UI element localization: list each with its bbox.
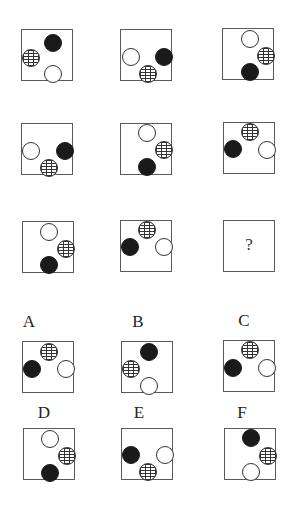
- grid-cell-r1c1: [21, 29, 73, 81]
- black-circle-icon: [224, 140, 242, 158]
- option-box-f[interactable]: [224, 428, 276, 480]
- brick-circle-icon: [122, 360, 140, 378]
- question-mark: ?: [224, 235, 274, 255]
- black-circle-icon: [241, 63, 259, 81]
- white-circle-icon: [22, 142, 40, 160]
- brick-circle-icon: [22, 49, 40, 67]
- brick-circle-icon: [259, 447, 277, 465]
- white-circle-icon: [122, 48, 140, 66]
- brick-circle-icon: [40, 343, 58, 361]
- grid-cell-r3c2: [120, 220, 172, 272]
- option-label-e: E: [119, 403, 159, 423]
- brick-circle-icon: [241, 341, 259, 359]
- brick-circle-icon: [57, 240, 75, 258]
- option-label-a: A: [9, 312, 49, 332]
- grid-cell-r2c2: [120, 123, 172, 175]
- brick-circle-icon: [241, 123, 259, 141]
- black-circle-icon: [140, 343, 158, 361]
- option-box-b[interactable]: [121, 341, 173, 393]
- brick-circle-icon: [139, 65, 157, 83]
- black-circle-icon: [44, 34, 62, 52]
- black-circle-icon: [155, 48, 173, 66]
- white-circle-icon: [155, 238, 173, 256]
- option-label-f: F: [222, 403, 262, 423]
- white-circle-icon: [156, 446, 174, 464]
- brick-circle-icon: [257, 47, 275, 65]
- grid-cell-r1c3: [222, 28, 274, 80]
- white-circle-icon: [258, 359, 276, 377]
- white-circle-icon: [44, 65, 62, 83]
- option-box-e[interactable]: [121, 428, 173, 480]
- black-circle-icon: [56, 142, 74, 160]
- black-circle-icon: [224, 359, 242, 377]
- grid-cell-r1c2: [120, 29, 172, 81]
- grid-cell-r3c3: ?: [223, 220, 275, 272]
- black-circle-icon: [242, 429, 260, 447]
- brick-circle-icon: [58, 447, 76, 465]
- brick-circle-icon: [138, 221, 156, 239]
- white-circle-icon: [40, 223, 58, 241]
- white-circle-icon: [138, 124, 156, 142]
- option-label-b: B: [118, 312, 158, 332]
- white-circle-icon: [140, 377, 158, 395]
- white-circle-icon: [241, 30, 259, 48]
- option-label-d: D: [24, 403, 64, 423]
- brick-circle-icon: [40, 159, 58, 177]
- white-circle-icon: [242, 463, 260, 481]
- black-circle-icon: [23, 360, 41, 378]
- black-circle-icon: [41, 464, 59, 482]
- black-circle-icon: [138, 158, 156, 176]
- white-circle-icon: [41, 430, 59, 448]
- option-box-a[interactable]: [22, 341, 74, 393]
- white-circle-icon: [258, 141, 276, 159]
- white-circle-icon: [57, 360, 75, 378]
- black-circle-icon: [121, 238, 139, 256]
- option-label-c: C: [224, 311, 264, 331]
- grid-cell-r3c1: [22, 221, 74, 273]
- grid-cell-r2c3: [223, 122, 275, 174]
- brick-circle-icon: [155, 141, 173, 159]
- black-circle-icon: [122, 446, 140, 464]
- grid-cell-r2c1: [21, 123, 73, 175]
- black-circle-icon: [40, 256, 58, 274]
- brick-circle-icon: [139, 463, 157, 481]
- option-box-d[interactable]: [23, 428, 75, 480]
- option-box-c[interactable]: [223, 340, 275, 392]
